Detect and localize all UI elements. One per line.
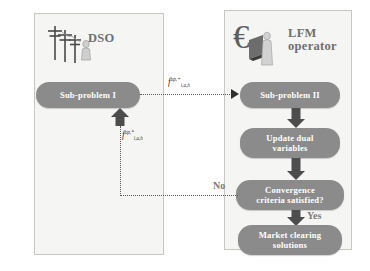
label-forward-flow: fup,+i,a,h [168, 76, 190, 88]
connector-sub1-to-sub2 [140, 94, 234, 95]
label-branch-no: No [213, 180, 225, 191]
node-convergence-line2: criteria satisfied? [256, 195, 324, 205]
node-update-dual-line1: Update dual [266, 133, 313, 143]
node-sub-problem-1[interactable]: Sub-problem I [36, 82, 140, 108]
connector-convergence-return-horizontal [120, 195, 238, 196]
label-backward-flow: fup,*i,a,h [122, 129, 143, 141]
euro-operator-icon: € [232, 18, 288, 68]
panel-title-lfm-line2: operator [288, 40, 350, 53]
label-forward-flow-sub: i,a,h [181, 82, 190, 88]
node-market-line2: solutions [259, 240, 321, 250]
node-update-dual-line2: variables [266, 143, 313, 153]
label-backward-flow-sub: i,a,h [134, 135, 143, 141]
panel-title-dso: DSO [88, 32, 115, 45]
label-forward-flow-sup: up,+ [171, 76, 181, 82]
label-branch-yes: Yes [307, 210, 321, 221]
node-convergence-criteria[interactable]: Convergence criteria satisfied? [236, 180, 344, 210]
node-market-line1: Market clearing [259, 230, 321, 240]
arrow-convergence-to-market [285, 210, 307, 226]
node-market-clearing-solutions[interactable]: Market clearing solutions [238, 225, 342, 255]
node-update-dual-variables[interactable]: Update dual variables [240, 128, 340, 158]
label-backward-flow-sup: up,* [125, 129, 134, 135]
arrowhead-into-sub-problem-2 [231, 89, 239, 99]
panel-title-lfm: LFM operator [288, 27, 350, 53]
node-sub-problem-2[interactable]: Sub-problem II [240, 82, 340, 108]
svg-text:€: € [233, 19, 250, 55]
arrow-up-to-sub-problem-1 [109, 108, 131, 126]
connector-convergence-return-vertical [120, 126, 121, 196]
arrow-sub-problem-2-to-update-dual [285, 108, 307, 128]
arrow-update-dual-to-convergence [285, 158, 307, 180]
node-convergence-line1: Convergence [256, 185, 324, 195]
diagram-canvas: DSO Sub-problem I € LFM operator Sub-pro… [0, 0, 370, 271]
